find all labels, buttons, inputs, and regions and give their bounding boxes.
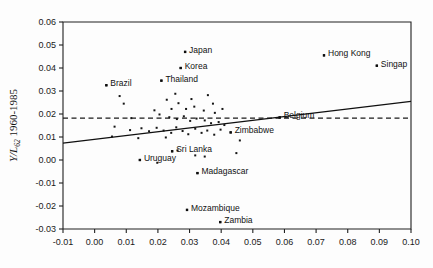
data-point	[163, 130, 165, 132]
x-tick-label: 0.04	[212, 237, 230, 247]
data-point-labeled	[179, 67, 181, 69]
data-point	[218, 121, 220, 123]
y-tick-label: -0.03	[35, 224, 56, 234]
data-point-labeled	[105, 84, 107, 86]
data-point	[168, 116, 170, 118]
data-point-labeled	[376, 65, 378, 67]
data-point	[158, 113, 160, 115]
y-tick-label: 0.05	[38, 40, 56, 50]
data-point	[185, 108, 187, 110]
data-point	[119, 95, 121, 97]
data-point	[153, 109, 155, 111]
data-point	[207, 94, 209, 96]
x-tick-label: 0.08	[339, 237, 357, 247]
data-point-labeled	[186, 209, 188, 211]
data-point	[204, 119, 206, 121]
data-point	[204, 156, 206, 158]
data-point	[213, 134, 215, 136]
data-point	[166, 99, 168, 101]
x-tick-label: 0.06	[276, 237, 294, 247]
data-point-labeled	[196, 172, 198, 174]
y-tick-label: -0.02	[35, 201, 56, 211]
data-point	[140, 127, 142, 129]
data-point-labeled	[184, 51, 186, 53]
y-tick-label: 0.00	[38, 155, 56, 165]
data-point	[194, 128, 196, 130]
y-tick-label: 0.02	[38, 109, 56, 119]
point-label: Zambia	[224, 215, 253, 225]
x-tick-label: 0.00	[86, 237, 104, 247]
data-point-labeled	[229, 131, 231, 133]
y-tick-label: 0.04	[38, 63, 56, 73]
data-point	[193, 106, 195, 108]
data-point	[175, 126, 177, 128]
point-label: Zimbabwe	[235, 125, 274, 135]
data-point	[212, 103, 214, 105]
x-tick-label: 0.09	[371, 237, 389, 247]
data-point	[214, 112, 216, 114]
data-point	[176, 118, 178, 120]
data-point	[221, 108, 223, 110]
data-point	[223, 124, 225, 126]
data-point	[220, 129, 222, 131]
data-point	[187, 133, 189, 135]
data-point	[183, 115, 185, 117]
data-point	[239, 139, 241, 141]
chart-svg: 0.060.050.040.030.020.010.00-0.01-0.02-0…	[0, 0, 433, 268]
data-point	[111, 136, 113, 138]
data-point	[177, 102, 179, 104]
point-label: Uruguay	[144, 153, 177, 163]
point-label: Madagascar	[201, 166, 248, 176]
point-label: Singap	[381, 59, 408, 69]
x-tick-label: 0.07	[307, 237, 325, 247]
data-point	[137, 137, 139, 139]
data-point	[170, 132, 172, 134]
data-point	[196, 118, 198, 120]
point-label: Hong Kong	[328, 48, 371, 58]
data-point-labeled	[160, 79, 162, 81]
data-point	[114, 126, 116, 128]
data-point	[210, 122, 212, 124]
y-tick-label: 0.03	[38, 86, 56, 96]
x-tick-label: -0.01	[53, 237, 74, 247]
data-point	[130, 117, 132, 119]
data-point	[235, 152, 237, 154]
x-tick-label: 0.03	[181, 237, 199, 247]
data-point-labeled	[279, 116, 281, 118]
point-label: Thailand	[165, 74, 198, 84]
data-point	[206, 130, 208, 132]
point-label: Brazil	[110, 78, 131, 88]
point-label: Belgium	[284, 110, 315, 120]
point-label: Korea	[185, 61, 208, 71]
data-point-labeled	[323, 54, 325, 56]
x-tick-label: 0.01	[118, 237, 136, 247]
y-axis-title: Y/L62 1960-1985	[7, 88, 22, 162]
plot-canvas: 0.060.050.040.030.020.010.00-0.01-0.02-0…	[0, 0, 433, 268]
data-point	[171, 108, 173, 110]
point-label: Japan	[189, 45, 212, 55]
data-point	[129, 129, 131, 131]
x-tick-label: 0.05	[244, 237, 262, 247]
data-point	[194, 154, 196, 156]
y-tick-label: -0.01	[35, 178, 56, 188]
scatter-plot-figure: 0.060.050.040.030.020.010.00-0.01-0.02-0…	[0, 0, 433, 268]
data-point-labeled	[139, 159, 141, 161]
data-point	[190, 98, 192, 100]
y-tick-label: 0.01	[38, 132, 56, 142]
data-point	[165, 136, 167, 138]
y-tick-label: 0.06	[38, 17, 56, 27]
data-point	[189, 120, 191, 122]
data-point	[182, 130, 184, 132]
data-point	[123, 103, 125, 105]
data-point	[148, 130, 150, 132]
data-point	[174, 93, 176, 95]
x-tick-label: 0.10	[402, 237, 420, 247]
svg-text:Y/L62 1960-1985: Y/L62 1960-1985	[7, 88, 22, 162]
regression-line	[63, 101, 411, 143]
data-point-labeled	[219, 221, 221, 223]
x-tick-label: 0.02	[149, 237, 167, 247]
point-label: Sri Lanka	[176, 144, 212, 154]
data-point	[201, 132, 203, 134]
data-point	[156, 127, 158, 129]
data-point	[203, 110, 205, 112]
